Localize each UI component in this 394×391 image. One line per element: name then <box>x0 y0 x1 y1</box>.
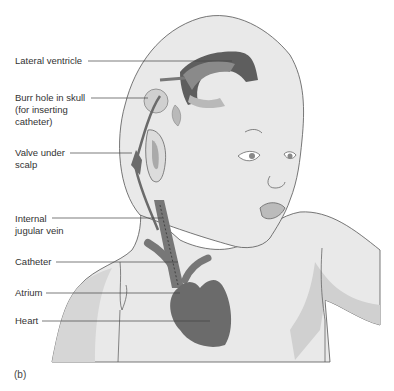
label-atrium: Atrium <box>15 287 42 299</box>
label-burr-hole: Burr hole in skull (for inserting cathet… <box>15 92 85 128</box>
panel-label: (b) <box>14 369 26 380</box>
label-heart: Heart <box>15 315 38 327</box>
label-jugular-vein: Internal jugular vein <box>15 213 64 237</box>
label-valve: Valve under scalp <box>15 147 65 171</box>
label-catheter: Catheter <box>15 256 51 268</box>
label-lateral-ventricle: Lateral ventricle <box>15 55 82 67</box>
